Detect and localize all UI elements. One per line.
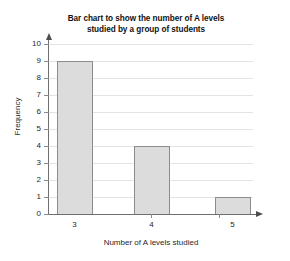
y-axis-tick bbox=[44, 112, 49, 113]
y-axis-tick-label: 2 bbox=[19, 176, 41, 184]
bar bbox=[134, 146, 170, 215]
y-axis-arrow-icon bbox=[46, 33, 52, 40]
y-axis-tick bbox=[44, 78, 49, 79]
y-axis-tick-label: 5 bbox=[19, 125, 41, 133]
x-axis-tick-label: 3 bbox=[63, 220, 87, 229]
x-axis-arrow-icon bbox=[256, 211, 263, 217]
y-axis-tick-label: 4 bbox=[19, 142, 41, 150]
bar bbox=[215, 197, 251, 215]
bar bbox=[57, 61, 93, 215]
y-axis-tick bbox=[44, 146, 49, 147]
y-axis-tick bbox=[44, 61, 49, 62]
plot-area bbox=[49, 44, 253, 214]
x-axis-tick bbox=[151, 214, 152, 218]
y-axis-tick bbox=[44, 95, 49, 96]
y-axis-tick bbox=[44, 44, 49, 45]
y-axis-tick bbox=[44, 214, 49, 215]
chart-title: Bar chart to show the number of A levels… bbox=[30, 13, 262, 35]
y-axis-tick bbox=[44, 163, 49, 164]
y-axis-tick-label: 3 bbox=[19, 159, 41, 167]
y-axis-tick bbox=[44, 197, 49, 198]
chart-title-line-1: Bar chart to show the number of A levels bbox=[30, 13, 262, 24]
y-axis-tick bbox=[44, 129, 49, 130]
y-axis-tick-label: 10 bbox=[19, 40, 41, 48]
x-axis-title: Number of A levels studied bbox=[49, 238, 253, 247]
chart-title-line-2: studied by a group of students bbox=[30, 24, 262, 35]
x-axis-tick bbox=[219, 214, 220, 218]
y-axis-tick-label: 1 bbox=[19, 193, 41, 201]
y-axis-tick-label: 6 bbox=[19, 108, 41, 116]
y-axis-tick-label: 7 bbox=[19, 91, 41, 99]
y-axis-tick bbox=[44, 180, 49, 181]
y-axis-line bbox=[48, 40, 49, 215]
y-axis-tick-label: 0 bbox=[19, 210, 41, 218]
x-axis-line bbox=[49, 214, 257, 215]
gridline bbox=[49, 44, 253, 45]
y-axis-tick-label: 8 bbox=[19, 74, 41, 82]
x-axis-tick-label: 5 bbox=[221, 220, 245, 229]
bar-chart: Bar chart to show the number of A levels… bbox=[0, 0, 290, 261]
x-axis-tick-label: 4 bbox=[140, 220, 164, 229]
y-axis-title: Frequency bbox=[13, 87, 22, 147]
y-axis-tick-label: 9 bbox=[19, 57, 41, 65]
